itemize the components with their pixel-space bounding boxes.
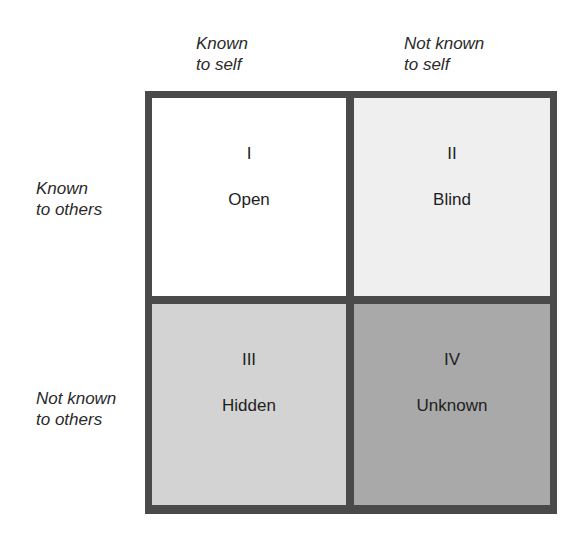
johari-window-grid: I Open II Blind III Hidden IV Unknown: [145, 91, 557, 514]
quadrant-name: Open: [152, 190, 346, 210]
column-header-not-known-to-self: Not known to self: [404, 33, 484, 75]
row-header-line1: Not known: [36, 388, 116, 409]
column-header-line2: to self: [404, 54, 484, 75]
quadrant-numeral: I: [152, 144, 346, 164]
row-header-line1: Known: [36, 178, 102, 199]
row-header-not-known-to-others: Not known to others: [36, 388, 116, 430]
quadrant-numeral: III: [152, 350, 346, 370]
column-header-line1: Not known: [404, 33, 484, 54]
row-header-line2: to others: [36, 199, 102, 220]
quadrant-open: I Open: [152, 98, 346, 296]
column-header-line1: Known: [196, 33, 248, 54]
quadrant-name: Hidden: [152, 396, 346, 416]
quadrant-hidden: III Hidden: [152, 304, 346, 505]
quadrant-blind: II Blind: [354, 98, 550, 296]
quadrant-name: Blind: [354, 190, 550, 210]
quadrant-name: Unknown: [354, 396, 550, 416]
quadrant-unknown: IV Unknown: [354, 304, 550, 505]
column-header-line2: to self: [196, 54, 248, 75]
quadrant-numeral: IV: [354, 350, 550, 370]
quadrant-numeral: II: [354, 144, 550, 164]
row-header-known-to-others: Known to others: [36, 178, 102, 220]
row-header-line2: to others: [36, 409, 116, 430]
column-header-known-to-self: Known to self: [196, 33, 248, 75]
